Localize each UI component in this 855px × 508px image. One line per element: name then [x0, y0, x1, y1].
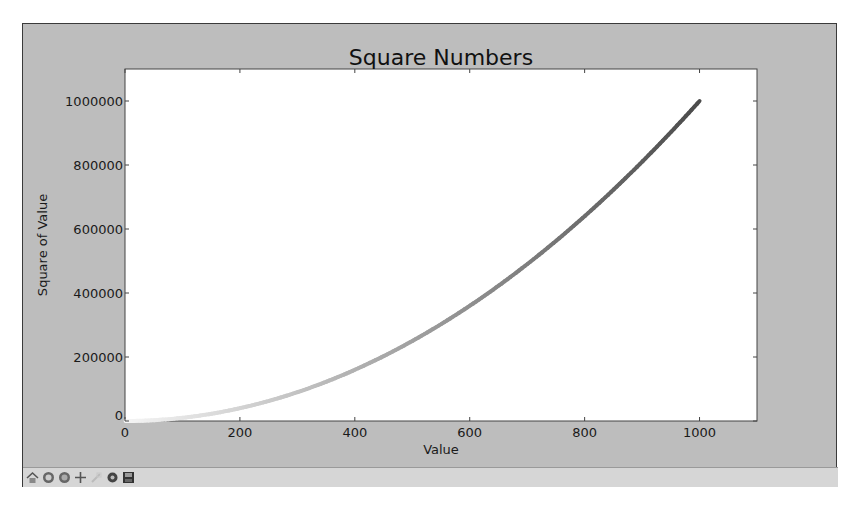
x-tick-label: 1000 — [683, 425, 716, 440]
x-tick-label: 200 — [227, 425, 252, 440]
zoom-button[interactable] — [89, 470, 104, 485]
pan-button[interactable] — [73, 470, 88, 485]
x-tick-label: 600 — [457, 425, 482, 440]
x-tick-label: 400 — [342, 425, 367, 440]
pan-icon — [74, 471, 87, 484]
x-tick-label: 0 — [121, 425, 129, 440]
figure-canvas: 02004006008001000 0200000400000600000800… — [23, 24, 836, 467]
chart-title: Square Numbers — [349, 45, 533, 70]
y-tick-label: 600000 — [73, 222, 123, 237]
y-tick-label: 800000 — [73, 158, 123, 173]
save-button[interactable] — [121, 470, 136, 485]
forward-icon — [58, 471, 71, 484]
back-button[interactable] — [41, 470, 56, 485]
back-icon — [42, 471, 55, 484]
configure-subplots-icon — [106, 471, 119, 484]
y-tick-label: 0 — [115, 408, 123, 423]
y-tick-label: 1000000 — [65, 94, 123, 109]
y-tick-label: 400000 — [73, 286, 123, 301]
y-tick-label: 200000 — [73, 350, 123, 365]
y-axis-label: Square of Value — [35, 194, 50, 296]
navigation-toolbar — [23, 467, 838, 487]
chart-canvas[interactable]: 02004006008001000 0200000400000600000800… — [23, 24, 836, 467]
zoom-icon — [90, 471, 103, 484]
home-icon — [26, 471, 39, 484]
save-icon — [122, 471, 135, 484]
x-axis-label: Value — [423, 442, 459, 457]
configure-subplots-button[interactable] — [105, 470, 120, 485]
x-tick-label: 800 — [572, 425, 597, 440]
plot-area — [125, 69, 757, 421]
forward-button[interactable] — [57, 470, 72, 485]
home-button[interactable] — [25, 470, 40, 485]
plot-window: 02004006008001000 0200000400000600000800… — [22, 23, 837, 487]
